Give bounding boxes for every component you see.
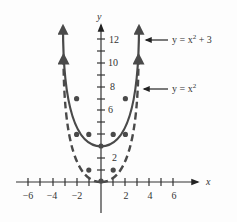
x-axis-label: x bbox=[205, 176, 211, 187]
x-tick-label: −2 bbox=[72, 190, 83, 201]
x-tick-label: 4 bbox=[148, 190, 153, 201]
svg-text:y = x2: y = x2 bbox=[172, 82, 197, 94]
y-tick-label: 2 bbox=[112, 152, 117, 163]
svg-text:y = x2 + 3: y = x2 + 3 bbox=[172, 33, 212, 45]
annotation-x2-plus-3: y = x2 + 3 bbox=[146, 33, 212, 45]
y-tick-label: 8 bbox=[110, 81, 115, 92]
x-tick-label: −6 bbox=[23, 190, 34, 201]
x-tick-label: −4 bbox=[47, 190, 58, 201]
eq-bottom-prefix: y = x bbox=[172, 83, 193, 94]
eq-top-suffix: + 3 bbox=[196, 34, 212, 45]
eq-top-prefix: y = x bbox=[172, 34, 193, 45]
x-axis: −6 −4 −2 2 4 6 x bbox=[16, 176, 211, 201]
annotation-x2: y = x2 bbox=[144, 82, 197, 94]
x-tick-label: 6 bbox=[172, 190, 177, 201]
y-axis-label: y bbox=[96, 11, 102, 22]
y-tick-label: 12 bbox=[109, 34, 119, 45]
y-tick-label: 10 bbox=[108, 57, 118, 68]
eq-bottom-sup: 2 bbox=[193, 82, 197, 90]
parabola-plot: −6 −4 −2 2 4 6 x bbox=[0, 0, 237, 222]
x-tick-label: 2 bbox=[124, 190, 129, 201]
y-tick-label: 6 bbox=[108, 104, 113, 115]
chart-figure: −6 −4 −2 2 4 6 x bbox=[0, 0, 237, 222]
